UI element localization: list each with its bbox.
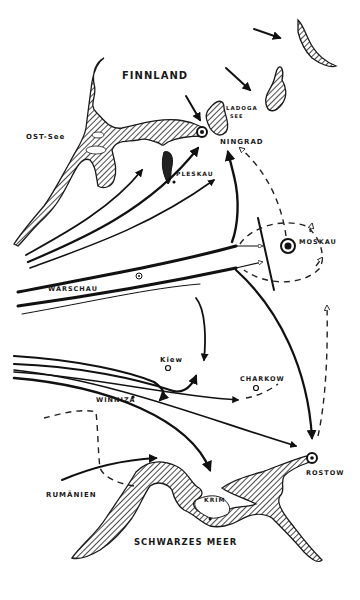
ladoga-lake <box>206 101 227 135</box>
campaign-map: FINNLAND OST-See LADOGA SEE NINGRAD PLES… <box>0 0 360 600</box>
label-leningrad: NINGRAD <box>220 138 264 146</box>
south-thrust <box>14 356 296 470</box>
label-finnland: FINNLAND <box>122 70 188 81</box>
label-rostow: ROSTOW <box>306 469 344 477</box>
baltic-thrust <box>26 148 214 268</box>
label-krim: KRIM <box>204 496 225 503</box>
pleskau-marker <box>172 180 175 183</box>
label-ostsee: OST-See <box>26 133 65 141</box>
moskau-marker <box>281 239 295 253</box>
onega-lake <box>266 67 286 111</box>
label-moskau: MOSKAU <box>299 238 337 246</box>
north-arrow-1 <box>254 29 280 38</box>
label-charkow: CHARKOW <box>240 375 285 383</box>
center-thrust <box>18 246 262 314</box>
rostow-retreat-dashed <box>318 306 327 436</box>
leningrad-marker <box>197 127 207 137</box>
leningrad-moskau-solid <box>232 176 238 242</box>
charkow-marker <box>254 386 259 391</box>
rumaenien-border <box>44 411 134 486</box>
label-kiew: Kiew <box>160 356 183 364</box>
label-ladoga-see: SEE <box>230 113 243 119</box>
rostow-marker <box>307 453 317 463</box>
label-rumaenien: RUMÄNIEN <box>46 490 97 499</box>
label-winniza: WINNIZA <box>96 396 136 404</box>
kiew-marker <box>166 366 171 371</box>
to-rostow-arc <box>236 270 312 438</box>
north-arrow-2 <box>226 68 250 90</box>
white-sea-coast <box>298 20 336 67</box>
kiew-north-arrow <box>196 298 205 360</box>
label-schwarzes-meer: SCHWARZES MEER <box>134 537 237 547</box>
baltic-coast <box>14 58 206 246</box>
label-pleskau: PLESKAU <box>176 170 214 177</box>
north-arrow-3 <box>186 96 200 120</box>
label-warschau: WARSCHAU <box>48 285 98 293</box>
label-ladoga: LADOGA <box>226 105 258 111</box>
